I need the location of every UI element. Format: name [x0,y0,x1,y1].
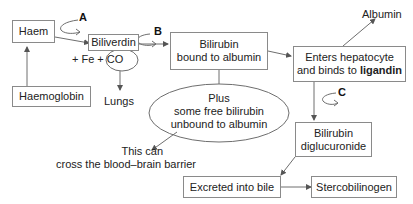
edge-haem-biliverdin [55,37,89,43]
edge-bilirubin-hepatocyte [268,51,291,56]
node-haemoglobin-label: Haemoglobin [19,90,84,103]
node-stercobilinogen: Stercobilinogen [311,176,397,198]
step-label-b: B [154,25,162,37]
node-diglucuronide-line2: diglucuronide [301,140,366,153]
node-bilirubin-bound-line1: Bilirubin [199,38,238,51]
node-biliverdin: Biliverdin [88,34,139,51]
fe-co-label: + Fe + CO [72,53,123,66]
albumin-label: Albumin [362,8,402,21]
edge-diglucuronide-bile [281,157,295,175]
bbb-label-2: cross the blood–brain barrier [56,158,196,171]
node-free-bilirubin: Plus some free bilirubin unbound to albu… [154,92,284,131]
node-hepatocyte-line2: and binds to ligandin [297,64,402,77]
node-hepatocyte-line1: Enters hepatocyte [305,51,394,64]
free-bilirubin-line3: unbound to albumin [154,118,284,131]
ligandin-term: ligandin [360,64,402,76]
bbb-line2: cross the blood–brain barrier [56,158,196,171]
node-hepatocyte: Enters hepatocyte and binds to ligandin [293,46,406,82]
step-label-a: A [79,11,87,23]
node-biliverdin-label: Biliverdin [91,36,136,49]
node-bilirubin-diglucuronide: Bilirubin diglucuronide [295,122,372,157]
node-haemoglobin: Haemoglobin [12,86,91,107]
node-bilirubin-bound-albumin: Bilirubin bound to albumin [170,32,268,70]
node-bile-label: Excreted into bile [190,181,274,194]
curved-arrow-a-icon [61,20,80,33]
node-haem-label: Haem [19,25,48,38]
node-stercobilinogen-label: Stercobilinogen [316,181,392,194]
node-bile: Excreted into bile [183,176,281,198]
node-diglucuronide-line1: Bilirubin [314,127,353,140]
curved-arrow-c-icon [323,93,339,104]
curved-arrow-c-head [334,100,338,106]
bbb-line1: This can [55,145,163,158]
edge-hepatocyte-albumin [343,19,375,46]
hepatocyte-line2-prefix: and binds to [297,64,360,76]
step-label-c: C [338,86,346,98]
lungs-label: Lungs [104,95,134,108]
bbb-label: This can [55,145,163,158]
free-bilirubin-line2: some free bilirubin [154,105,284,118]
free-bilirubin-line1: Plus [154,92,284,105]
node-bilirubin-bound-line2: bound to albumin [177,51,261,64]
node-haem: Haem [12,20,55,43]
curved-arrow-a-head [76,29,80,35]
